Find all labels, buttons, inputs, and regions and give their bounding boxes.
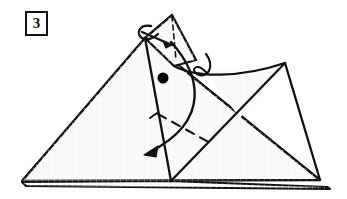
step-number-text: 3 — [33, 16, 41, 31]
step-number-badge: 3 — [25, 11, 48, 36]
origami-diagram-canvas — [0, 0, 347, 199]
origami-figure: 3 — [0, 0, 347, 199]
reference-dot — [158, 73, 169, 84]
